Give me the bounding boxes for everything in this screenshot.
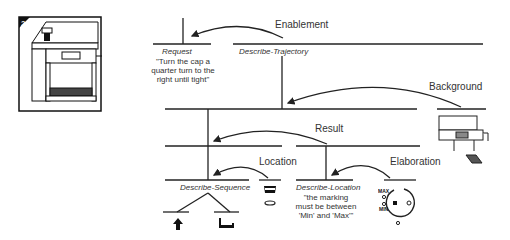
node-describe-location-label: Describe-Location — [296, 183, 360, 192]
gauge-min-label: MIN — [379, 206, 389, 212]
cap-icon — [262, 184, 278, 208]
machine-open-lid-icon — [436, 113, 490, 165]
cap-side-icon — [217, 216, 235, 230]
node-describe-trajectory-label: Describe-Trajectory — [239, 47, 308, 56]
node-request-label: Request — [162, 47, 192, 56]
up-arrow-icon — [172, 217, 184, 231]
min-max-gauge-icon: MAX MIN — [378, 186, 418, 226]
node-describe-location-quote: "the marking must be between 'Min' and '… — [294, 193, 358, 220]
node-describe-sequence-label: Describe-Sequence — [180, 183, 250, 192]
relation-location: Location — [259, 156, 297, 167]
relation-enablement: Enablement — [275, 19, 328, 30]
relation-elaboration: Elaboration — [390, 156, 441, 167]
relation-background: Background — [429, 81, 482, 92]
rst-tree-diagram — [0, 0, 510, 240]
relation-result: Result — [315, 123, 343, 134]
gauge-max-label: MAX — [378, 188, 390, 194]
node-request-quote: "Turn the cap a quarter turn to the righ… — [148, 57, 218, 84]
